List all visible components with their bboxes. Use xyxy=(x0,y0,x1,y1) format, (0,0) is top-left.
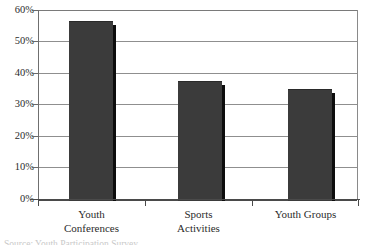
bar-shadow xyxy=(113,25,116,201)
y-tick-label-20: 20% xyxy=(2,131,34,141)
caption-fragment: Source: Youth Participation Survey xyxy=(4,239,194,245)
x-tick-mark-1 xyxy=(145,199,146,206)
bar-chart: 60% 50% 40% 30% 20% 10% 0% xyxy=(0,0,366,245)
x-tick-mark-2 xyxy=(252,199,253,206)
bar-shadow xyxy=(332,93,335,201)
y-tick-label-60: 60% xyxy=(2,5,34,15)
y-tick-label-30: 30% xyxy=(2,99,34,109)
bar-shadow-notch xyxy=(332,90,335,93)
y-tick-label-40: 40% xyxy=(2,68,34,78)
bar-shadow-notch xyxy=(222,82,225,85)
x-category-label-youth-groups: Youth Groups xyxy=(252,208,359,222)
y-axis: 60% 50% 40% 30% 20% 10% 0% xyxy=(0,0,34,245)
x-category-label-sports-activities: Sports Activities xyxy=(145,208,252,235)
plot-area xyxy=(38,10,358,200)
gridline-60 xyxy=(39,10,357,11)
bar-shadow-notch xyxy=(113,22,116,25)
x-tick-mark-0 xyxy=(38,199,39,206)
y-tick-label-10: 10% xyxy=(2,162,34,172)
y-tick-label-50: 50% xyxy=(2,36,34,46)
x-axis-line xyxy=(30,199,360,200)
bar-youth-conferences[interactable] xyxy=(69,21,113,201)
bar-sports-activities[interactable] xyxy=(178,81,222,201)
bar-shadow xyxy=(222,85,225,201)
x-category-label-youth-conferences: Youth Conferences xyxy=(38,208,145,235)
x-tick-mark-3 xyxy=(358,199,359,206)
bar-youth-groups[interactable] xyxy=(288,89,332,201)
